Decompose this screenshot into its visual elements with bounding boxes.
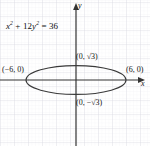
point-label-left-vertex: (−6, 0) bbox=[2, 66, 24, 74]
equation-label: x2 + 12y2 = 36 bbox=[6, 22, 58, 31]
point-label-top-vertex: (0, √3) bbox=[76, 53, 98, 61]
ellipse-graph-figure: x2 + 12y2 = 36 (0, √3) (0, −√3) (−6, 0) … bbox=[0, 0, 150, 146]
y-axis-label: y bbox=[78, 2, 82, 10]
point-label-right-vertex: (6, 0) bbox=[126, 66, 143, 74]
point-label-bottom-vertex: (0, −√3) bbox=[76, 99, 102, 107]
x-axis-label: x bbox=[141, 80, 145, 88]
